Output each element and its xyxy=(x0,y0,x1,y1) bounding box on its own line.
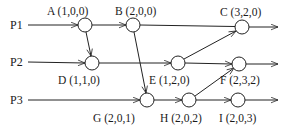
event-label-h: H (2,0,2) xyxy=(160,112,202,125)
message-e-to-c xyxy=(184,31,236,59)
process-label-p3: P3 xyxy=(10,93,23,107)
event-node-h xyxy=(182,93,196,107)
vector-clock-diagram: P1 P2 P3 xyxy=(0,0,295,130)
event-node-e xyxy=(171,56,185,70)
process-label-p1: P1 xyxy=(10,18,23,32)
event-label-b: B (2,0,0) xyxy=(115,5,156,18)
event-label-a: A (1,0,0) xyxy=(47,5,88,18)
event-label-i: I (2,0,3) xyxy=(219,112,257,125)
message-a-to-d xyxy=(86,32,91,56)
event-node-c xyxy=(235,20,249,34)
event-node-i xyxy=(231,93,245,107)
event-node-d xyxy=(85,56,99,70)
event-label-c: C (3,2,0) xyxy=(220,6,261,19)
event-node-f xyxy=(232,57,246,71)
event-node-g xyxy=(140,93,154,107)
event-label-d: D (1,1,0) xyxy=(58,74,100,87)
event-label-g: G (2,0,1) xyxy=(93,112,135,125)
event-node-b xyxy=(126,18,140,32)
event-label-e: E (1,2,0) xyxy=(149,74,190,87)
event-label-f: F (2,3,2) xyxy=(220,74,260,87)
process-label-p2: P2 xyxy=(10,55,23,69)
event-node-a xyxy=(78,18,92,32)
